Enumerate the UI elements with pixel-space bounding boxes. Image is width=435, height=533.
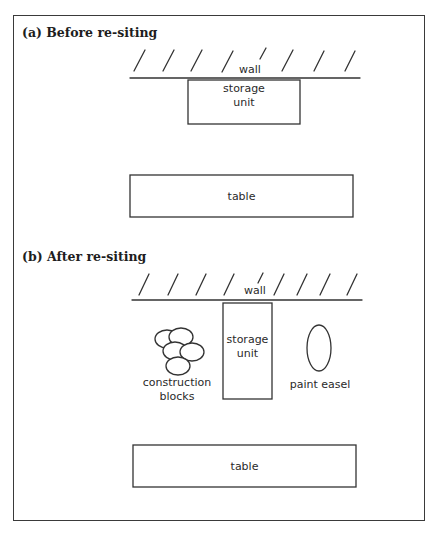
panel-a-storage-label-line1: storage <box>188 82 300 96</box>
panel-a-storage-label-line2: unit <box>188 96 300 110</box>
construction-blocks-icon <box>155 328 204 375</box>
paint-easel-icon <box>307 325 331 371</box>
panel-b-storage-label-line1: storage <box>223 333 272 347</box>
construction-blocks-label-line2: blocks <box>140 390 214 404</box>
panel-a-wall-label: wall <box>230 63 270 77</box>
construction-blocks-label-line1: construction <box>140 376 214 390</box>
panel-b-storage-label-line2: unit <box>223 347 272 361</box>
panel-a-table-label: table <box>130 190 353 204</box>
panel-b-wall-label: wall <box>235 284 275 298</box>
panel-b-table-label: table <box>133 460 356 474</box>
paint-easel-label: paint easel <box>285 378 355 392</box>
layout-drawing <box>0 0 435 533</box>
